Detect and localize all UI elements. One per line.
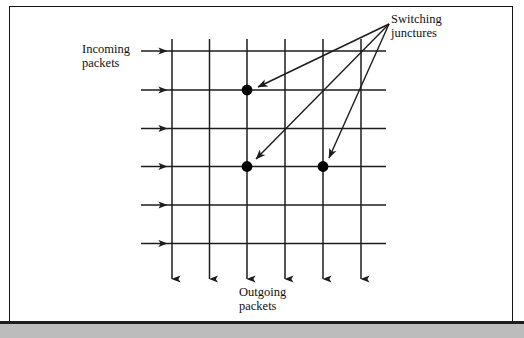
figure-page: Incoming packets Outgoing packets Switch… xyxy=(0,0,524,338)
incoming-packets-label: Incoming packets xyxy=(82,42,130,70)
incoming-rows xyxy=(141,51,386,244)
page-edge-shadow xyxy=(0,324,524,338)
junction-dot-2 xyxy=(242,161,253,172)
junction-dot-1 xyxy=(242,85,253,96)
junction-dot-3 xyxy=(318,161,329,172)
switching-junctures-label: Switching junctures xyxy=(391,12,442,40)
callout-arrow-to-junction-3 xyxy=(329,24,389,158)
outgoing-packets-label: Outgoing packets xyxy=(239,285,286,313)
